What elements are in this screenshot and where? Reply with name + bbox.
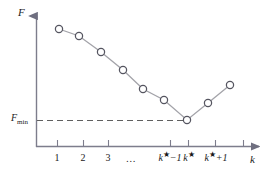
fmin-subscript-text: min bbox=[17, 118, 28, 126]
plot-canvas bbox=[0, 0, 271, 177]
figure-container: F Fmin k 1 2 3 … k★−1 k★ k★+1 bbox=[0, 0, 271, 177]
x-tick-label-kstar: k★ bbox=[183, 153, 194, 163]
data-point-marker bbox=[55, 25, 62, 32]
data-markers bbox=[55, 25, 233, 123]
data-point-marker bbox=[139, 85, 146, 92]
data-point-marker bbox=[204, 99, 211, 106]
x-tick-label-ellipsis: … bbox=[126, 154, 137, 164]
kstar-suffix: +1 bbox=[216, 152, 228, 163]
data-series-line bbox=[59, 29, 230, 120]
x-tick-label-1: 1 bbox=[55, 153, 60, 163]
data-point-marker bbox=[97, 48, 104, 55]
x-tick-label-kstar-plus-1: k★+1 bbox=[204, 153, 227, 163]
kstar-suffix: −1 bbox=[170, 152, 182, 163]
data-point-marker bbox=[75, 32, 82, 39]
data-point-marker bbox=[160, 96, 167, 103]
y-axis-label: F bbox=[18, 7, 25, 18]
x-tick-label-3: 3 bbox=[106, 153, 111, 163]
x-axis-label: k bbox=[250, 154, 255, 165]
data-point-marker-minimum bbox=[183, 116, 190, 123]
data-point-marker bbox=[226, 81, 233, 88]
data-point-marker bbox=[119, 66, 126, 73]
x-axis-ticks bbox=[58, 140, 244, 147]
x-tick-label-2: 2 bbox=[81, 153, 86, 163]
x-tick-label-kstar-minus-1: k★−1 bbox=[158, 153, 181, 163]
kstar-superscript: ★ bbox=[188, 150, 195, 159]
fmin-axis-label: Fmin bbox=[11, 113, 28, 126]
